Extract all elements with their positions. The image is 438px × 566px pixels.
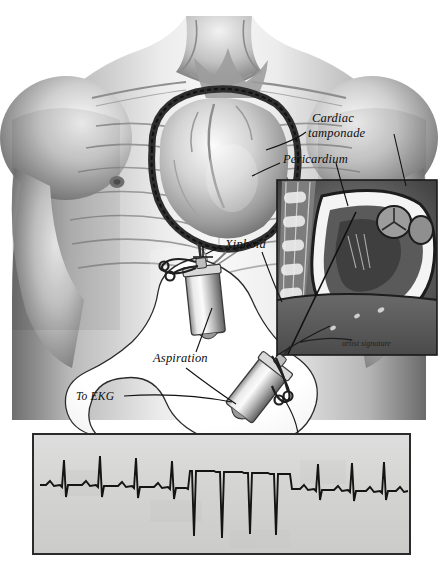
label-aspiration: Aspiration [152,351,208,365]
areola-left [114,179,121,185]
label-to-ekg: To EKG [76,390,115,402]
ekg-strip [33,434,410,554]
label-cardiac-tamponade-line1: Cardiac [312,111,354,125]
cross-section-inset: artist signature [277,180,438,356]
inset-valve-orifice-minor [409,216,433,244]
left-ventricle-highlight [206,144,258,212]
label-cardiac-tamponade-line2: tamponade [308,126,366,140]
label-pericardium: Pericardium [282,152,348,166]
artist-signature: artist signature [342,339,391,348]
pericardiocentesis-figure: artist signature [0,0,438,566]
label-xiphoid: Xiphoid [224,237,267,251]
illustration-canvas: artist signature [0,0,438,566]
